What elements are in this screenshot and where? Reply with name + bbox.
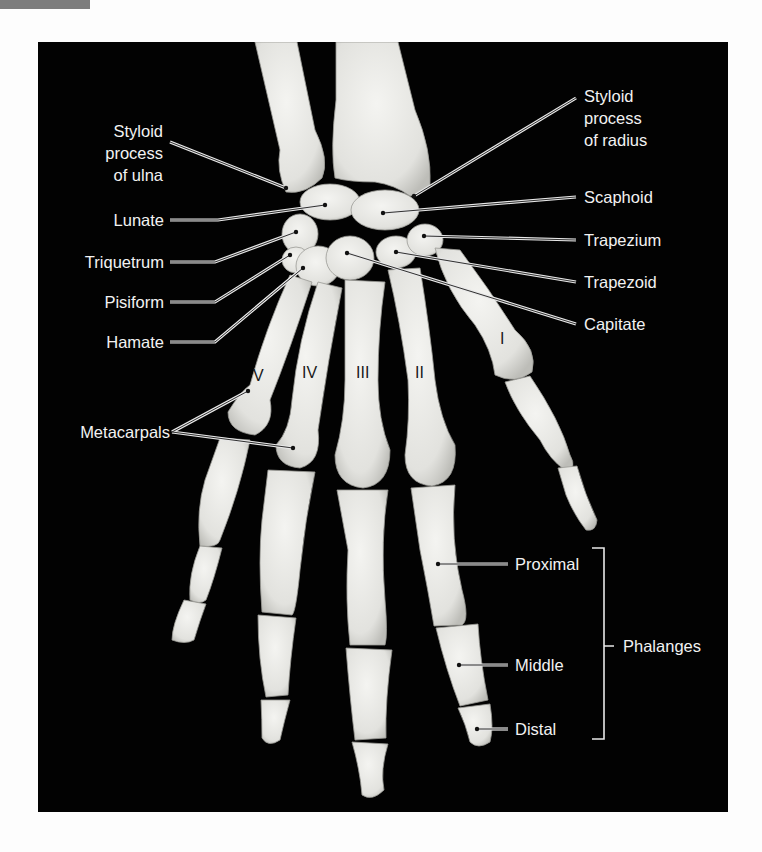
label-line: Styloid — [584, 85, 647, 107]
label-proximal: Proximal — [515, 553, 579, 575]
label-lunate: Lunate — [58, 209, 164, 231]
numeral-ii: II — [415, 364, 424, 382]
little-proximal-phalanx — [199, 438, 250, 546]
middle-middle-phalanx — [346, 648, 392, 740]
label-capitate: Capitate — [584, 313, 645, 335]
label-middle: Middle — [515, 654, 564, 676]
ring-distal-phalanx — [261, 700, 290, 744]
metacarpal-iii — [335, 280, 390, 488]
phalanges-bracket — [592, 548, 614, 739]
label-line: process — [584, 107, 647, 129]
header-tab — [0, 0, 90, 9]
label-scaphoid: Scaphoid — [584, 186, 653, 208]
label-line: process — [100, 142, 163, 164]
numeral-v: V — [253, 367, 264, 385]
index-distal-phalanx — [458, 704, 492, 746]
label-styloid-radius: Styloid process of radius — [584, 85, 647, 151]
ulna-bone — [255, 42, 325, 192]
lunate-bone — [300, 184, 360, 220]
little-middle-phalanx — [190, 546, 222, 603]
label-trapezoid: Trapezoid — [584, 271, 657, 293]
label-metacarpals: Metacarpals — [48, 421, 170, 443]
thumb-proximal-phalanx — [505, 376, 573, 470]
ring-middle-phalanx — [258, 615, 296, 697]
label-triquetrum: Triquetrum — [58, 251, 164, 273]
radius-bone — [333, 42, 430, 196]
numeral-iii: III — [356, 364, 369, 382]
label-line: of ulna — [100, 164, 163, 186]
label-distal: Distal — [515, 718, 556, 740]
label-phalanges: Phalanges — [623, 635, 701, 657]
thumb-distal-phalanx — [558, 466, 597, 530]
middle-proximal-phalanx — [337, 490, 388, 645]
label-styloid-ulna: Styloid process of ulna — [100, 120, 163, 186]
label-pisiform: Pisiform — [58, 291, 164, 313]
numeral-i: I — [500, 330, 504, 348]
little-distal-phalanx — [172, 600, 206, 643]
middle-distal-phalanx — [352, 742, 388, 798]
bones — [172, 42, 597, 798]
label-line: Styloid — [100, 120, 163, 142]
label-line: of radius — [584, 129, 647, 151]
label-hamate: Hamate — [58, 331, 164, 353]
diagram-panel: Styloid process of ulna Lunate Triquetru… — [38, 42, 728, 812]
ring-proximal-phalanx — [260, 470, 315, 615]
numeral-iv: IV — [302, 364, 317, 382]
index-proximal-phalanx — [411, 485, 466, 626]
label-trapezium: Trapezium — [584, 229, 661, 251]
